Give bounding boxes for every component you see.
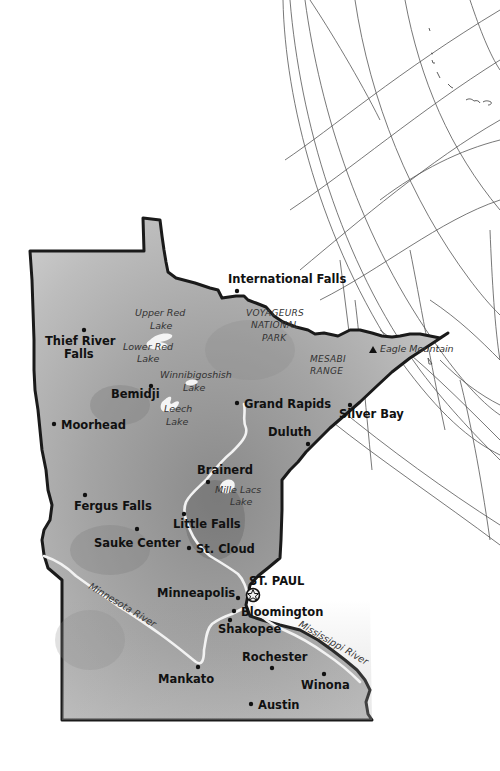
svg-text:Sauke Center: Sauke Center <box>94 536 181 550</box>
svg-text:St. Cloud: St. Cloud <box>196 542 255 556</box>
svg-text:Lake: Lake <box>183 382 206 393</box>
svg-text:Upper Red: Upper Red <box>135 307 186 318</box>
dot-icon <box>83 493 87 497</box>
star-in-circle-icon <box>247 589 260 602</box>
dot-icon <box>235 401 239 405</box>
minnesota-map: Minnesota River Mississippi River VOYAGE… <box>0 0 500 771</box>
svg-text:Minneapolis: Minneapolis <box>157 586 235 600</box>
svg-text:Lower Red: Lower Red <box>123 341 174 352</box>
dot-icon <box>249 702 253 706</box>
svg-text:Eagle Mountain: Eagle Mountain <box>380 343 454 354</box>
city-st-cloud: St. Cloud <box>187 542 255 556</box>
dot-icon <box>82 328 86 332</box>
dot-icon <box>270 666 274 670</box>
svg-text:RANGE: RANGE <box>310 366 343 376</box>
city-grand-rapids: Grand Rapids <box>235 397 332 411</box>
svg-text:PARK: PARK <box>262 333 287 343</box>
svg-text:Lake: Lake <box>230 496 253 507</box>
svg-text:Winona: Winona <box>301 678 350 692</box>
dot-icon <box>135 527 139 531</box>
globe-islands <box>429 28 491 105</box>
svg-text:Fergus Falls: Fergus Falls <box>74 499 152 513</box>
svg-text:Grand Rapids: Grand Rapids <box>244 397 331 411</box>
dot-icon <box>196 665 200 669</box>
dot-icon <box>232 609 236 613</box>
svg-text:Duluth: Duluth <box>268 425 312 439</box>
svg-text:Lake: Lake <box>137 353 160 364</box>
svg-text:Lake: Lake <box>166 416 189 427</box>
city-bemidji: Bemidji <box>111 384 160 401</box>
svg-text:Thief River: Thief River <box>45 334 116 348</box>
svg-text:Moorhead: Moorhead <box>61 418 126 432</box>
dot-icon <box>306 442 310 446</box>
svg-text:Rochester: Rochester <box>242 650 308 664</box>
dot-icon <box>236 596 240 600</box>
svg-text:Bemidji: Bemidji <box>111 387 160 401</box>
dot-icon <box>206 480 210 484</box>
svg-text:International Falls: International Falls <box>228 272 346 286</box>
svg-text:ST. PAUL: ST. PAUL <box>249 574 305 588</box>
dot-icon <box>52 422 56 426</box>
svg-text:NATIONAL: NATIONAL <box>251 320 299 330</box>
svg-text:VOYAGEURS: VOYAGEURS <box>246 308 304 318</box>
svg-text:Leech: Leech <box>164 403 192 414</box>
city-minneapolis: Minneapolis <box>157 586 240 600</box>
svg-text:Mankato: Mankato <box>158 672 214 686</box>
svg-text:Mille Lacs: Mille Lacs <box>215 484 261 495</box>
city-silver-bay: Silver Bay <box>339 403 404 421</box>
svg-text:Lake: Lake <box>150 320 173 331</box>
dot-icon <box>322 672 326 676</box>
svg-text:Little Falls: Little Falls <box>173 517 241 531</box>
svg-text:Falls: Falls <box>64 347 94 361</box>
svg-text:Winnibigoshish: Winnibigoshish <box>160 369 232 380</box>
city-moorhead: Moorhead <box>52 418 126 432</box>
city-bloomington: Bloomington <box>232 605 324 619</box>
svg-text:Shakopee: Shakopee <box>218 622 282 636</box>
svg-text:MESABI: MESABI <box>310 354 346 364</box>
city-st-paul: ST. PAUL <box>247 574 306 602</box>
svg-text:Brainerd: Brainerd <box>197 463 253 477</box>
svg-text:Austin: Austin <box>258 698 300 712</box>
city-international-falls: International Falls <box>228 272 346 293</box>
dot-icon <box>182 512 186 516</box>
dot-icon <box>235 289 239 293</box>
svg-text:Bloomington: Bloomington <box>241 605 323 619</box>
svg-text:Silver Bay: Silver Bay <box>339 407 404 421</box>
dot-icon <box>187 546 191 550</box>
